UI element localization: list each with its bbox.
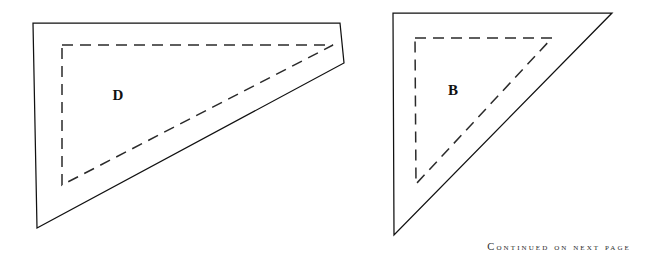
figure-d-group: D: [33, 23, 344, 228]
figure-page: D B Continued on next page: [0, 0, 645, 263]
dashed-triangle-b: [415, 38, 552, 184]
solid-quadrilateral-d: [33, 23, 344, 228]
shape-label-b: B: [448, 82, 458, 98]
dashed-triangle-d: [62, 45, 333, 185]
geometry-figure-canvas: D B: [0, 0, 645, 263]
continued-on-next-page-note: Continued on next page: [0, 241, 645, 252]
shape-label-d: D: [113, 87, 124, 103]
solid-triangle-b: [393, 13, 612, 235]
figure-b-group: B: [393, 13, 612, 235]
